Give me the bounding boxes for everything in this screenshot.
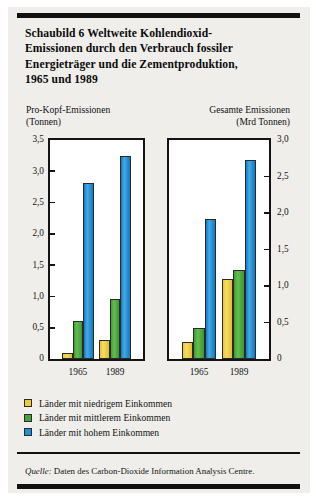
- source-text: Daten des Carbon-Dioxide Information Ana…: [52, 466, 255, 476]
- source-prefix: Quelle:: [25, 466, 52, 476]
- legend: Länder mit niedrigem Einkommen Länder mi…: [24, 396, 294, 440]
- page-margin-bottom: [0, 493, 316, 500]
- y-tick-mark: [50, 327, 55, 329]
- top-rule: [17, 13, 300, 18]
- y-tick-label: 3,5: [32, 135, 44, 144]
- page-margin-right: [310, 0, 316, 500]
- legend-swatch-middle-income-icon: [24, 414, 32, 422]
- y-tick-mark: [264, 322, 269, 324]
- y-tick-label: 0,5: [32, 323, 44, 332]
- legend-item-middle-income: Länder mit mittlerem Einkommen: [24, 411, 294, 426]
- x-category-label: 1989: [93, 367, 137, 377]
- y-tick-label: 0: [39, 354, 44, 363]
- legend-label-middle-income: Länder mit mittlerem Einkommen: [39, 412, 170, 423]
- y-tick-label: 0: [277, 354, 282, 363]
- x-category-label: 1965: [177, 367, 221, 377]
- y-tick-mark: [264, 249, 269, 251]
- right-panel-header-line-2: (Mrd Tonnen): [160, 116, 290, 128]
- y-tick-mark: [50, 170, 55, 172]
- title-line-3: Energieträger und die Zementproduktion,: [25, 57, 300, 72]
- legend-label-high-income: Länder mit hohem Einkommen: [39, 427, 159, 438]
- right-panel-header-line-1: Gesamte Emissionen: [160, 104, 290, 116]
- y-tick-mark: [50, 233, 55, 235]
- page-margin-left: [0, 0, 8, 500]
- legend-separator-rule: [17, 452, 300, 454]
- legend-swatch-high-income-icon: [24, 428, 32, 436]
- legend-swatch-low-income-icon: [24, 399, 32, 407]
- right-chart-plot-area: [167, 138, 271, 361]
- y-tick-label: 2,5: [277, 172, 289, 181]
- y-tick-mark: [264, 285, 269, 287]
- bar: [110, 299, 121, 359]
- left-chart-plot-area: [48, 138, 145, 361]
- y-tick-mark: [264, 176, 269, 178]
- title-line-2: Emissionen durch den Verbrauch fossiler: [25, 41, 300, 56]
- y-tick-mark: [50, 202, 55, 204]
- bar: [83, 183, 94, 359]
- y-tick-label: 1,5: [277, 245, 289, 254]
- left-chart-bars: [50, 140, 143, 359]
- title-line-4: 1965 und 1989: [25, 72, 300, 87]
- y-tick-label: 2,0: [277, 208, 289, 217]
- bar: [193, 328, 205, 359]
- y-tick-label: 0,5: [277, 318, 289, 327]
- y-tick-label: 1,0: [32, 292, 44, 301]
- bar: [182, 342, 194, 359]
- y-tick-label: 2,5: [32, 198, 44, 207]
- figure-card: Schaubild 6 Weltweite Kohlendioxid- Emis…: [0, 0, 316, 500]
- x-category-label: 1989: [217, 367, 261, 377]
- y-tick-label: 2,0: [32, 229, 44, 238]
- bottom-rule: [17, 484, 300, 489]
- y-tick-label: 3,0: [32, 167, 44, 176]
- bar: [205, 219, 217, 359]
- y-tick-label: 1,0: [277, 281, 289, 290]
- bar: [120, 156, 131, 359]
- bar: [99, 340, 110, 359]
- right-chart-bars: [169, 140, 269, 359]
- y-tick-mark: [50, 296, 55, 298]
- right-panel-header: Gesamte Emissionen (Mrd Tonnen): [160, 104, 290, 127]
- page-margin-top: [0, 0, 316, 7]
- source-note: Quelle: Daten des Carbon-Dioxide Informa…: [25, 466, 254, 476]
- bar: [222, 279, 234, 359]
- legend-item-high-income: Länder mit hohem Einkommen: [24, 425, 294, 440]
- y-tick-mark: [50, 264, 55, 266]
- legend-item-low-income: Länder mit niedrigem Einkommen: [24, 396, 294, 411]
- legend-label-low-income: Länder mit niedrigem Einkommen: [39, 398, 172, 409]
- bar: [245, 160, 257, 359]
- bar: [62, 353, 73, 359]
- y-tick-mark: [264, 212, 269, 214]
- bar: [73, 321, 84, 359]
- figure-title: Schaubild 6 Weltweite Kohlendioxid- Emis…: [25, 26, 300, 88]
- bar: [233, 270, 245, 359]
- y-tick-label: 3,0: [277, 135, 289, 144]
- y-tick-label: 1,5: [32, 261, 44, 270]
- title-line-1: Schaubild 6 Weltweite Kohlendioxid-: [25, 26, 300, 41]
